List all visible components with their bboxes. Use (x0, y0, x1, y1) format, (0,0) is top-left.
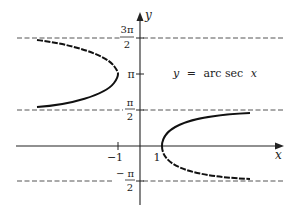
equation-fn: arc sec (203, 67, 243, 80)
right-branch-upper-solid (162, 113, 250, 146)
right-branch-lower-dashed (162, 146, 250, 179)
y-axis-label: y (144, 8, 152, 22)
left-branch-lower-solid (37, 74, 118, 107)
ytick-3pi2-num: 3π (121, 24, 134, 35)
equation-eq: = (187, 67, 196, 80)
ytick-neg-pi2-num: − π (116, 168, 135, 179)
equation-var: x (251, 67, 258, 80)
ytick-pi2-den: 2 (127, 111, 133, 122)
ytick-pi2-num: π (127, 97, 134, 108)
ytick-3pi2-den: 2 (124, 39, 130, 50)
x-axis-label: x (275, 148, 282, 162)
ytick-pi: π (127, 68, 134, 81)
ytick-neg-pi2-den: 2 (127, 182, 133, 193)
equation-label: y = arc sec x (172, 67, 258, 80)
equation-lhs: y (172, 67, 180, 80)
left-branch-upper-dashed (37, 40, 118, 74)
xtick-neg-1: −1 (107, 151, 123, 164)
y-axis-arrow-icon (137, 12, 144, 21)
arcsec-graph: y x 3π 2 π π 2 − π 2 −1 1 y = arc sec x (0, 0, 296, 208)
xtick-1: 1 (154, 151, 161, 164)
